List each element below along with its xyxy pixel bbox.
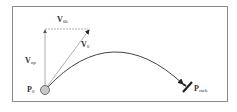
label-v-up: Vup: [25, 57, 36, 65]
racket-icon: [183, 82, 192, 92]
trajectory-diagram: [0, 0, 237, 112]
v-initial-arrow: [46, 30, 89, 88]
trajectory-curve: [47, 52, 183, 88]
label-p-start: P0: [27, 86, 34, 94]
label-p-racket: Prack: [194, 85, 208, 93]
label-v-initial: V0: [81, 41, 89, 49]
label-v-horizontal: V0h: [57, 16, 68, 24]
ball-icon: [41, 86, 50, 95]
